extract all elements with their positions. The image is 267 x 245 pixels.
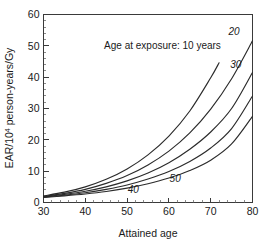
curve-label-20: 20 [228, 26, 241, 37]
chart-page: 304050607080 0102030405060 20304050 Age … [0, 0, 267, 245]
data-curves [44, 41, 253, 198]
y-tick-label-50: 50 [28, 40, 40, 52]
age-at-exposure-annotation: Age at exposure: 10 years [104, 40, 221, 51]
curve-labels-group: 20304050 [128, 26, 242, 195]
x-axis-major-ticks [44, 198, 253, 203]
x-tick-label-40: 40 [79, 205, 91, 217]
curve-age-50 [44, 116, 253, 197]
y-axis-tick-labels: 0102030405060 [28, 8, 40, 208]
y-axis-title: EAR/104 person-years/Gy [3, 47, 15, 168]
y-tick-label-60: 60 [28, 8, 40, 20]
x-tick-label-50: 50 [121, 205, 133, 217]
x-tick-label-80: 80 [247, 205, 259, 217]
x-axis-tick-labels: 304050607080 [38, 205, 259, 217]
x-axis-title: Attained age [119, 227, 178, 239]
y-tick-label-30: 30 [28, 102, 40, 114]
y-tick-label-40: 40 [28, 71, 40, 83]
curve-age-30 [44, 72, 253, 196]
y-axis-major-ticks [44, 15, 49, 203]
curve-label-40: 40 [128, 184, 140, 195]
ear-vs-attained-age-chart: 304050607080 0102030405060 20304050 Age … [0, 0, 267, 245]
y-tick-label-0: 0 [34, 196, 40, 208]
y-axis-title-tail: person-years/Gy [3, 47, 15, 128]
x-tick-label-70: 70 [205, 205, 217, 217]
curve-age-40 [44, 96, 253, 197]
y-axis-title-base: EAR/10 [3, 132, 15, 168]
y-tick-label-10: 10 [28, 165, 40, 177]
x-tick-label-60: 60 [163, 205, 175, 217]
curve-label-30: 30 [230, 59, 242, 70]
y-tick-label-20: 20 [28, 134, 40, 146]
curve-label-50: 50 [170, 173, 182, 184]
